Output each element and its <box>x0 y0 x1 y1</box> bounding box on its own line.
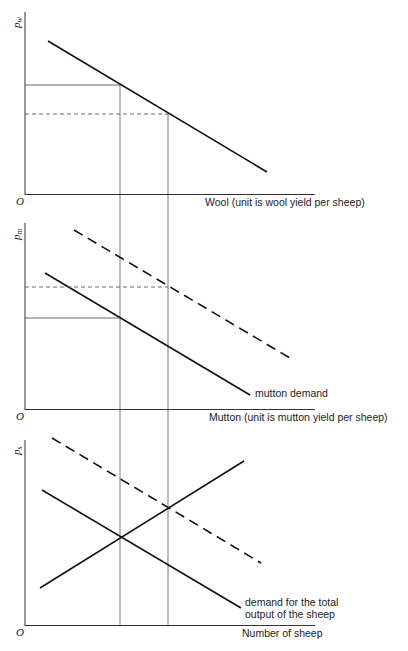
total-demand-label-line1: demand for the total <box>245 596 338 608</box>
y-axis-label: pm <box>10 229 24 242</box>
total-demand-label-line2: output of the sheep <box>245 608 335 620</box>
shifted-total-demand-curve <box>52 438 261 563</box>
shifted-mutton-demand-curve <box>74 230 290 358</box>
wool-demand-curve <box>48 41 267 172</box>
mutton-demand-curve <box>45 273 250 395</box>
wool-panel: pw O Wool (unit is wool yield per sheep) <box>10 12 365 208</box>
x-axis-label: Mutton (unit is mutton yield per sheep) <box>209 411 388 423</box>
sheep-joint-product-diagram: pw O Wool (unit is wool yield per sheep)… <box>0 0 408 651</box>
x-axis-label: Number of sheep <box>242 627 323 639</box>
supply-curve <box>40 461 244 588</box>
mutton-demand-label: mutton demand <box>255 387 328 399</box>
y-axis-label: pw <box>10 17 24 30</box>
origin-label: O <box>16 195 24 207</box>
mutton-panel: pm O mutton demand Mutton (unit is mutto… <box>10 223 388 423</box>
x-axis-label: Wool (unit is wool yield per sheep) <box>205 196 365 208</box>
total-demand-curve <box>42 490 241 608</box>
y-axis-label: ps <box>10 446 24 456</box>
origin-label: O <box>16 626 24 638</box>
sheep-panel: ps O demand for the total output of the … <box>10 438 338 639</box>
origin-label: O <box>16 410 24 422</box>
